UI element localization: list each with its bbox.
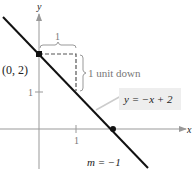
- y-axis-label: y: [36, 1, 42, 12]
- run-label: 1: [55, 31, 60, 42]
- slope-label: m = −1: [87, 156, 121, 168]
- point-y-intercept: [36, 51, 42, 57]
- graph-canvas: y x 1 1 (0, 2) 1 1 unit down y = −x + 2 …: [0, 0, 192, 169]
- point-label: (0, 2): [2, 63, 28, 77]
- slope-diagram: y x 1 1 (0, 2) 1 1 unit down y = −x + 2 …: [0, 0, 192, 169]
- point-x-intercept: [110, 126, 116, 132]
- equation-leader-line: [96, 96, 121, 110]
- rise-brace: [80, 55, 86, 91]
- rise-label: 1 unit down: [88, 67, 141, 79]
- x-tick-label: 1: [74, 135, 79, 146]
- x-axis-label: x: [186, 124, 192, 135]
- y-tick-label: 1: [28, 87, 33, 98]
- equation-label: y = −x + 2: [123, 93, 173, 105]
- run-brace: [40, 42, 76, 48]
